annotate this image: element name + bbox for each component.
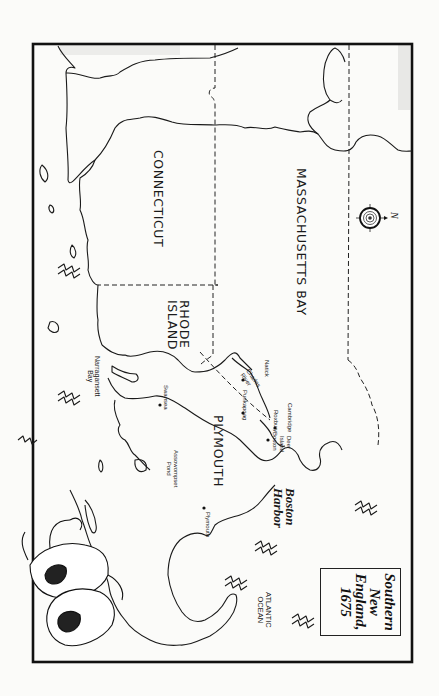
title-line-4: 1675 — [339, 571, 354, 633]
coastline-upper — [58, 46, 412, 183]
coastline-west — [79, 160, 102, 345]
colony-label-massachusetts-bay: MASSACHUSETTS BAY — [295, 168, 308, 316]
title-line-3: England, — [354, 571, 369, 633]
border-ma-north-lower — [348, 360, 379, 445]
island — [49, 205, 54, 213]
town-label-boston: Boston — [272, 432, 279, 451]
island — [70, 245, 75, 258]
town-label-cambridge: Cambridge — [287, 403, 294, 432]
colony-label-plymouth: PLYMOUTH — [212, 415, 225, 487]
town-label-swansea: Swansea — [163, 385, 170, 410]
atlantic-line2: OCEAN — [256, 592, 264, 628]
town-label-plymouth: Plymouth — [205, 512, 212, 537]
river-upper-right — [308, 48, 345, 134]
wave-glyph — [292, 614, 314, 628]
elizabeth-islands — [85, 500, 96, 533]
narragansett-line1: Narragansett — [94, 356, 101, 396]
town-label-roxbury: Roxbury — [273, 410, 280, 432]
island — [99, 460, 103, 472]
title-line-2: New — [368, 571, 383, 633]
colony-label-rhode-island: RHODE ISLAND — [166, 300, 190, 350]
wave-glyph — [355, 501, 377, 515]
town-dot-plymouth — [202, 506, 205, 509]
rhode-island-line2: ISLAND — [166, 300, 178, 350]
wave-glyph — [58, 264, 80, 278]
town-label-deer-island: Deer Island — [279, 436, 292, 452]
wave-glyph — [255, 541, 277, 555]
town-label-natick: Natick — [264, 360, 271, 377]
island — [40, 165, 48, 182]
border-ma-ct-upper — [209, 45, 215, 285]
town-dot-swansea — [158, 403, 161, 406]
town-label-punkapoag: Punkapoag — [242, 390, 249, 420]
wave-glyph — [58, 391, 80, 405]
assowompset-line1: Assowompset — [173, 450, 180, 487]
label-narragansett-bay: Narragansett Bay — [87, 356, 100, 396]
border-ma-north — [348, 45, 349, 360]
label-atlantic-ocean: ATLANTIC OCEAN — [256, 592, 272, 628]
island-aquidneck — [112, 366, 138, 382]
boston-harbor-line2: Harbor — [272, 488, 284, 528]
label-boston-harbor: Boston Harbor — [272, 488, 296, 528]
border-ri-ma — [200, 285, 213, 365]
map-title: Southern New England, 1675 — [339, 571, 397, 633]
river-fork — [330, 100, 342, 103]
wave-glyph — [225, 576, 247, 590]
atlantic-line1: ATLANTIC — [264, 592, 272, 628]
scan-shading — [398, 45, 410, 110]
colony-label-connecticut: CONNECTICUT — [152, 150, 165, 247]
deer-island-line2: Island — [279, 436, 286, 452]
block-island — [48, 322, 59, 333]
mt-hope-bay — [114, 400, 150, 470]
title-line-1: Southern — [383, 571, 398, 633]
compass-rose-icon — [356, 204, 388, 232]
town-dot-boston — [266, 438, 269, 441]
compass-north-label: N — [389, 212, 400, 219]
map-title-cartouche: Southern New England, 1675 — [320, 568, 401, 636]
label-assowompset-pond: Assowompset Pond — [166, 450, 179, 487]
deer-island-line1: Deer — [286, 436, 293, 452]
scan-shading — [60, 45, 180, 55]
